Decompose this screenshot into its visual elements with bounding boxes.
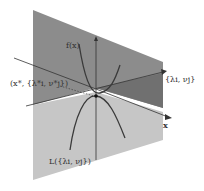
saddle-point-diagram: f(x) (x*, {λ*i, ν*j}) {λi, νj} x L({λi, … bbox=[0, 0, 204, 191]
label-lagrangian-dual: L({λi, νj}) bbox=[49, 157, 91, 166]
label-dual-axis: {λi, νj} bbox=[165, 75, 195, 84]
saddle-point bbox=[94, 94, 98, 98]
label-x-axis: x bbox=[163, 120, 168, 130]
lower-plane bbox=[33, 92, 163, 180]
label-f-x: f(x) bbox=[66, 41, 80, 50]
label-saddle-point: (x*, {λ*i, ν*j}) bbox=[10, 79, 68, 88]
